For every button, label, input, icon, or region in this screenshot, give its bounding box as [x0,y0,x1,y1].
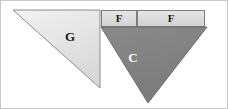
geometric-region-diagram: G F F C [0,0,228,109]
region-g-label: G [65,29,75,44]
region-c-triangle [101,27,207,103]
figure-container: G F F C [0,0,228,109]
region-c-label: C [128,50,137,65]
region-f-left-label: F [116,12,123,24]
region-f-right-label: F [168,12,175,24]
region-g-triangle [13,10,100,88]
